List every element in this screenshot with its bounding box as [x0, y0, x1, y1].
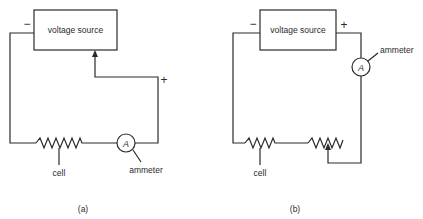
- cell-resistor-icon-b: [245, 138, 308, 148]
- plus-sign-b: +: [340, 18, 347, 32]
- cell-label-b: cell: [254, 168, 267, 178]
- ammeter-symbol-b: A: [357, 63, 364, 73]
- ammeter-symbol-a: A: [122, 139, 129, 149]
- plus-sign-a: +: [160, 73, 167, 87]
- voltage-source-label-a: voltage source: [48, 25, 104, 35]
- ammeter-label-b: ammeter: [380, 45, 414, 55]
- voltage-source-label-b: voltage source: [270, 25, 326, 35]
- wire-right-bottom-b: [328, 76, 361, 163]
- circuit-diagram-figure: voltage source − + cell A ammeter (a) vo…: [0, 0, 423, 219]
- panel-a: voltage source − + cell A ammeter (a): [10, 10, 168, 214]
- panel-b: voltage source − + A ammeter cell (b): [233, 10, 414, 214]
- ammeter-leader-a: [133, 150, 141, 162]
- ammeter-leader-b: [368, 53, 378, 61]
- wire-right-a: [95, 52, 158, 143]
- wire-left-b: [233, 33, 260, 143]
- minus-sign-b: −: [249, 17, 256, 31]
- wire-left-a: [10, 33, 36, 143]
- cell-label-a: cell: [53, 168, 66, 178]
- ammeter-label-a: ammeter: [129, 165, 163, 175]
- wire-right-top-b: [336, 33, 361, 58]
- arrowhead-icon-a: [92, 50, 98, 57]
- caption-a: (a): [78, 204, 89, 214]
- rheostat-icon-b: [308, 138, 343, 148]
- caption-b: (b): [290, 204, 301, 214]
- cell-resistor-icon-a: [36, 138, 117, 148]
- minus-sign-a: −: [23, 17, 30, 31]
